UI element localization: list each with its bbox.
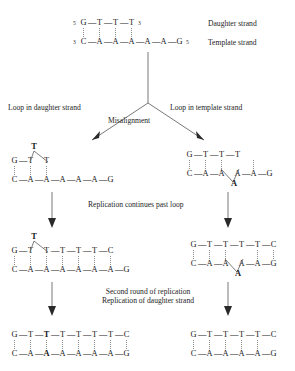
second-round-block: Second round of replication Replication … bbox=[76, 287, 220, 306]
backbone-bond: — bbox=[83, 350, 90, 358]
backbone-bond: — bbox=[67, 350, 74, 358]
backbone-bond: — bbox=[51, 350, 58, 358]
base: G bbox=[189, 331, 198, 339]
backbone-bond: — bbox=[35, 350, 42, 358]
base: A bbox=[205, 350, 214, 358]
backbone-bond: — bbox=[262, 331, 269, 339]
base: C bbox=[10, 350, 19, 358]
base: C bbox=[189, 350, 198, 358]
backbone-bond: — bbox=[19, 331, 26, 339]
backbone-bond: — bbox=[246, 350, 253, 358]
base: A bbox=[221, 350, 230, 358]
backbone-bond: — bbox=[214, 331, 221, 339]
base: C bbox=[122, 331, 131, 339]
backbone-bond: — bbox=[51, 331, 58, 339]
backbone-bond: — bbox=[246, 331, 253, 339]
backbone-bond: — bbox=[83, 331, 90, 339]
insertion-product-structure: G — T — T — T — T — T — T — C C — A — A … bbox=[10, 330, 131, 360]
base: A bbox=[253, 350, 262, 358]
base: A bbox=[58, 350, 67, 358]
backbone-bond: — bbox=[198, 331, 205, 339]
backbone-bond: — bbox=[115, 350, 122, 358]
base: G bbox=[122, 350, 131, 358]
replication-of-daughter-label: Replication of daughter strand bbox=[76, 296, 220, 305]
deletion-product-bottom-strand: C — A — A — A — A — G bbox=[189, 349, 278, 360]
base: A bbox=[26, 350, 35, 358]
replication-slippage-diagram: 5 G — T — T — T 3 3 C — A — A — A — A — … bbox=[0, 0, 295, 371]
deletion-product-structure: G — T — T — T — T — C C — A — A — A — A … bbox=[189, 330, 278, 360]
backbone-bond: — bbox=[230, 350, 237, 358]
insertion-product-top-strand: G — T — T — T — T — T — T — C bbox=[10, 330, 131, 341]
backbone-bond: — bbox=[35, 331, 42, 339]
base: T bbox=[205, 331, 214, 339]
backbone-bond: — bbox=[262, 350, 269, 358]
base: T bbox=[221, 331, 230, 339]
base: G bbox=[269, 350, 278, 358]
base: A bbox=[237, 350, 246, 358]
base: G bbox=[10, 331, 19, 339]
base: T bbox=[237, 331, 246, 339]
base: A bbox=[106, 350, 115, 358]
base: T bbox=[253, 331, 262, 339]
base: C bbox=[269, 331, 278, 339]
base: T bbox=[58, 331, 67, 339]
backbone-bond: — bbox=[198, 350, 205, 358]
base: T bbox=[106, 331, 115, 339]
inserted-base: A bbox=[42, 350, 51, 358]
second-round-arrows bbox=[0, 0, 295, 330]
backbone-bond: — bbox=[99, 331, 106, 339]
backbone-bond: — bbox=[230, 331, 237, 339]
backbone-bond: — bbox=[99, 350, 106, 358]
deletion-product-top-strand: G — T — T — T — T — C bbox=[189, 330, 278, 341]
backbone-bond: — bbox=[214, 350, 221, 358]
base: T bbox=[74, 331, 83, 339]
backbone-bond: — bbox=[19, 350, 26, 358]
backbone-bond: — bbox=[115, 331, 122, 339]
base: T bbox=[90, 331, 99, 339]
backbone-bond: — bbox=[67, 331, 74, 339]
insertion-product-bottom-strand: C — A — A — A — A — A — A — G bbox=[10, 349, 131, 360]
base: A bbox=[90, 350, 99, 358]
base: A bbox=[74, 350, 83, 358]
inserted-base: T bbox=[42, 331, 51, 339]
base: T bbox=[26, 331, 35, 339]
second-round-label: Second round of replication bbox=[76, 287, 220, 296]
